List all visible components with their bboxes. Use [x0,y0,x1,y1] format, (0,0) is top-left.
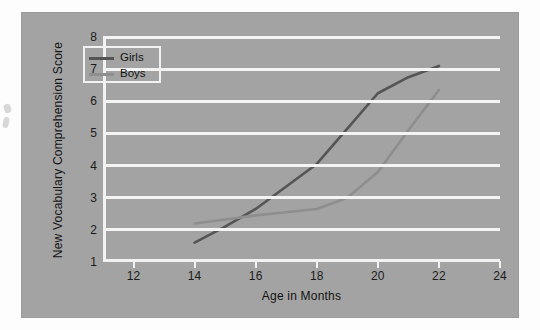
gridline [103,228,500,231]
y-tick-label: 5 [71,126,97,140]
series-line-boys [195,90,439,223]
x-axis-title: Age in Months [103,289,500,303]
y-tick-label: 4 [71,159,97,173]
gridline [103,196,500,199]
x-tick-mark [499,261,501,268]
legend-color-swatch-girls [89,57,114,60]
scan-artifact-speck [2,116,10,128]
page-background: New Vocabulary Comprehension Score 12345… [0,0,540,330]
x-axis-tick-labels: 12141618202224 [103,269,500,287]
legend-item-boys: Boys [85,66,159,82]
series-line-girls [195,66,439,243]
legend-label-girls: Girls [120,52,144,64]
y-tick-label: 3 [71,191,97,205]
chart-panel: New Vocabulary Comprehension Score 12345… [22,13,518,317]
y-tick-label: 1 [71,255,97,269]
x-tick-label: 16 [236,269,276,283]
legend-label-boys: Boys [120,68,146,80]
x-axis-line [103,259,500,262]
x-tick-mark [316,261,318,268]
legend-color-swatch-boys [89,73,114,76]
x-tick-mark [133,261,135,268]
y-axis-title: New Vocabulary Comprehension Score [51,35,65,265]
scan-artifact-speck [3,103,12,114]
plot-area [103,37,500,262]
x-tick-label: 12 [114,269,154,283]
x-tick-mark [194,261,196,268]
gridline [103,68,500,71]
x-tick-label: 22 [419,269,459,283]
x-tick-mark [438,261,440,268]
x-tick-mark [255,261,257,268]
gridline [103,164,500,167]
x-tick-label: 20 [358,269,398,283]
x-tick-mark [377,261,379,268]
gridline [103,36,500,39]
x-tick-label: 14 [175,269,215,283]
y-tick-label: 8 [71,30,97,44]
y-tick-label: 2 [71,223,97,237]
gridline [103,100,500,103]
x-tick-label: 24 [480,269,520,283]
gridline [103,132,500,135]
y-tick-label: 6 [71,94,97,108]
x-tick-label: 18 [297,269,337,283]
chart-legend: Girls Boys [83,46,161,83]
legend-item-girls: Girls [85,50,159,66]
